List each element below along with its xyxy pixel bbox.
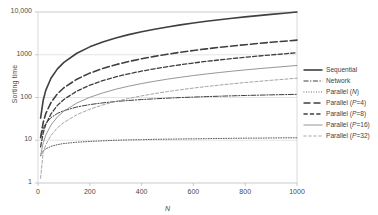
legend-item-label: Parallel (P=4) xyxy=(326,98,366,108)
y-tick-label: 10 xyxy=(2,135,32,142)
legend-item[interactable]: Parallel (P=4) xyxy=(303,97,378,108)
legend-item-label: Network xyxy=(326,76,350,86)
x-axis-title-wrapper: N xyxy=(38,197,297,215)
x-tick-label: 400 xyxy=(122,188,162,195)
legend-item[interactable]: Parallel (P=16) xyxy=(303,119,378,130)
series-line-parallel-p-32 xyxy=(41,78,297,178)
legend-item-label: Parallel (P=16) xyxy=(326,120,370,130)
legend-item[interactable]: Parallel (P=32) xyxy=(303,131,378,142)
legend-item-label: Sequential xyxy=(326,65,357,75)
x-tick-label: 200 xyxy=(70,188,110,195)
chart-legend: SequentialNetworkParallel (N)Parallel (P… xyxy=(303,64,378,142)
x-tick-label: 600 xyxy=(173,188,213,195)
legend-item[interactable]: Sequential xyxy=(303,64,378,75)
legend-item-label: Parallel (P=32) xyxy=(326,131,370,141)
legend-line-swatch xyxy=(303,76,323,86)
series-line-parallel-p-8 xyxy=(41,53,297,147)
legend-line-swatch xyxy=(303,87,323,97)
legend-item-label: Parallel (N) xyxy=(326,87,359,97)
legend-line-swatch xyxy=(303,98,323,108)
legend-line-swatch xyxy=(303,65,323,75)
legend-line-swatch xyxy=(303,109,323,119)
x-tick-label: 800 xyxy=(225,188,265,195)
x-tick-label: 0 xyxy=(18,188,58,195)
legend-item-label: Parallel (P=8) xyxy=(326,109,366,119)
y-tick-label: 1000 xyxy=(2,50,32,57)
legend-line-swatch xyxy=(303,120,323,130)
y-tick-label: 100 xyxy=(2,93,32,100)
legend-item[interactable]: Parallel (N) xyxy=(303,86,378,97)
series-line-network xyxy=(41,94,297,137)
legend-item[interactable]: Parallel (P=8) xyxy=(303,108,378,119)
y-tick-label: 1 xyxy=(2,178,32,185)
legend-item[interactable]: Network xyxy=(303,75,378,86)
x-axis-title: N xyxy=(165,205,170,212)
y-tick-label: 10,000 xyxy=(2,7,32,14)
y-axis-title-wrapper: Sorting time xyxy=(3,51,15,117)
legend-line-swatch xyxy=(303,131,323,141)
x-tick-label: 1000 xyxy=(277,188,317,195)
chart-container: Sorting time N 110100100010,000 02004006… xyxy=(0,0,378,215)
